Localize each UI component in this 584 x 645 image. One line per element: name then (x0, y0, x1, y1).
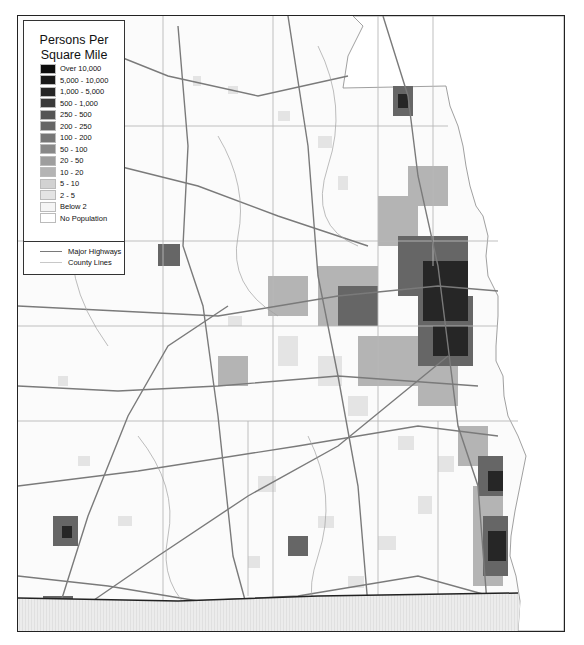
legend-swatch (40, 87, 56, 97)
legend-label: Over 10,000 (60, 64, 101, 73)
legend-title-line2: Square Mile (24, 48, 124, 63)
legend-label: No Population (60, 214, 107, 223)
legend-divider (24, 241, 124, 242)
legend-title: Persons Per Square Mile (24, 33, 124, 63)
legend-swatch (40, 121, 56, 131)
legend-label: County Lines (68, 258, 112, 267)
legend-item: No Population (40, 213, 108, 225)
legend-swatch (40, 144, 56, 154)
legend-item: 2 - 5 (40, 190, 108, 202)
legend-label: 200 - 250 (60, 122, 92, 131)
legend-item: 5,000 - 10,000 (40, 75, 108, 87)
map-frame: Persons Per Square Mile Over 10,000 5,00… (17, 15, 565, 632)
legend-swatch (40, 213, 56, 223)
legend-item: 500 - 1,000 (40, 98, 108, 110)
legend-item: 20 - 50 (40, 155, 108, 167)
legend-swatch (40, 156, 56, 166)
legend-label: 100 - 200 (60, 133, 92, 142)
legend-label: 250 - 500 (60, 110, 92, 119)
legend: Persons Per Square Mile Over 10,000 5,00… (23, 20, 125, 275)
legend-line-types: Major Highways County Lines (40, 246, 121, 268)
legend-item: Over 10,000 (40, 63, 108, 75)
highway-line-icon (40, 251, 62, 252)
legend-title-line1: Persons Per (24, 33, 124, 48)
county-line-icon (40, 262, 62, 263)
legend-label: 2 - 5 (60, 191, 75, 200)
legend-item: 100 - 200 (40, 132, 108, 144)
legend-item: Below 2 (40, 201, 108, 213)
legend-label: 50 - 100 (60, 145, 88, 154)
legend-swatch (40, 75, 56, 85)
legend-item: 1,000 - 5,000 (40, 86, 108, 98)
legend-label: 1,000 - 5,000 (60, 87, 104, 96)
legend-label: 5 - 10 (60, 179, 79, 188)
legend-item: 10 - 20 (40, 167, 108, 179)
legend-swatch (40, 190, 56, 200)
legend-swatch (40, 179, 56, 189)
legend-swatch (40, 133, 56, 143)
legend-label: 500 - 1,000 (60, 99, 98, 108)
legend-label: 10 - 20 (60, 168, 83, 177)
legend-item-county-lines: County Lines (40, 257, 121, 268)
legend-label: 20 - 50 (60, 156, 83, 165)
legend-swatch (40, 202, 56, 212)
legend-item: 200 - 250 (40, 121, 108, 133)
legend-classes: Over 10,000 5,000 - 10,000 1,000 - 5,000… (40, 63, 108, 224)
legend-label: Major Highways (68, 247, 121, 256)
legend-label: Below 2 (60, 202, 87, 211)
legend-swatch (40, 98, 56, 108)
legend-item: 250 - 500 (40, 109, 108, 121)
legend-swatch (40, 64, 56, 74)
legend-label: 5,000 - 10,000 (60, 76, 108, 85)
legend-item-highways: Major Highways (40, 246, 121, 257)
legend-swatch (40, 110, 56, 120)
legend-item: 5 - 10 (40, 178, 108, 190)
legend-item: 50 - 100 (40, 144, 108, 156)
legend-swatch (40, 167, 56, 177)
